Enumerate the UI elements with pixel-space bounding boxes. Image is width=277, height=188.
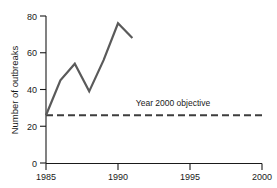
x-tick-label-1990: 1990: [108, 172, 128, 182]
x-tick-label-2000: 2000: [252, 172, 272, 182]
x-tick-label-1985: 1985: [36, 172, 56, 182]
y-tick-label-40: 40: [27, 85, 37, 95]
objective-annotation-label: Year 2000 objective: [136, 98, 211, 108]
y-tick-label-20: 20: [27, 122, 37, 132]
y-axis-title: Number of outbreaks: [9, 45, 20, 134]
outbreaks-data-line: [46, 23, 132, 115]
outbreaks-line-chart: 80 60 40 20 0 1985 1990 1995 2000 Number…: [0, 0, 277, 188]
x-tick-label-1995: 1995: [180, 172, 200, 182]
y-tick-label-60: 60: [27, 48, 37, 58]
y-tick-label-80: 80: [27, 12, 37, 22]
chart-canvas: 80 60 40 20 0 1985 1990 1995 2000 Number…: [0, 0, 277, 188]
y-tick-label-0: 0: [32, 159, 37, 169]
